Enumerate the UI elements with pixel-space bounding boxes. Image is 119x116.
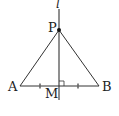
- point-p-label: P: [48, 20, 57, 35]
- point-a-label: A: [7, 79, 18, 94]
- perpendicular-bisector-diagram: l P A B M: [0, 0, 119, 116]
- segment-pb: [59, 30, 99, 86]
- line-l-label: l: [56, 0, 60, 11]
- point-p-dot: [57, 28, 61, 32]
- point-b-label: B: [102, 79, 112, 94]
- segment-pa: [20, 30, 59, 86]
- point-m-label: M: [45, 86, 58, 101]
- right-angle-mark: [59, 81, 64, 86]
